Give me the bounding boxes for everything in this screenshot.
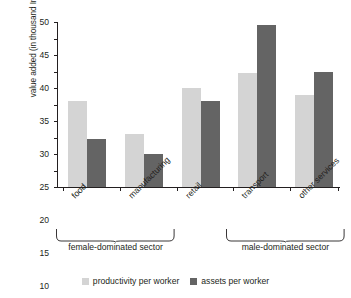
y-axis-title: value added (in thousand Indonesia Rupia… (25, 0, 41, 111)
group-bracket-label-female-dominated: female-dominated sector (56, 243, 175, 252)
y-tick-10: 10 (54, 154, 57, 155)
y-tick-label-45: 45 (39, 51, 49, 60)
y-tick-label-20: 20 (39, 216, 49, 225)
y-tick-label-50: 50 (39, 18, 49, 27)
x-tick-other-services (290, 188, 291, 191)
legend-swatch-icon-productivity (82, 278, 89, 285)
bar-transport-productivity (238, 73, 257, 187)
y-axis-line (57, 22, 58, 188)
y-tick-label-15: 15 (39, 249, 49, 258)
bar-retail-productivity (182, 88, 201, 187)
y-tick-label-25: 25 (39, 183, 49, 192)
y-tick-20: 20 (54, 121, 57, 122)
y-tick-label-35: 35 (39, 117, 49, 126)
x-tick-retail (177, 188, 178, 191)
bar-food-productivity (68, 101, 87, 187)
y-tick-30: 30 (54, 88, 57, 89)
legend-item-productivity: productivity per worker (82, 276, 179, 286)
group-bracket-label-male-dominated: male-dominated sector (226, 243, 345, 252)
legend-label-assets: assets per worker (201, 276, 269, 286)
bar-chart: value added (in thousand Indonesia Rupia… (0, 0, 351, 298)
y-tick-5: 5 (54, 171, 57, 172)
legend-label-productivity: productivity per worker (93, 276, 179, 286)
bar-food-assets (87, 139, 106, 187)
y-tick-15: 15 (54, 138, 57, 139)
plot-area: 05101520253035404550 foodmanufacturingre… (57, 22, 340, 188)
x-tick-manufacturing (120, 188, 121, 191)
y-tick-35: 35 (54, 72, 57, 73)
y-tick-0: 0 (54, 187, 57, 188)
legend: productivity per worker assets per worke… (0, 276, 351, 286)
x-tick-food (63, 188, 64, 191)
legend-swatch-icon-assets (190, 278, 197, 285)
y-tick-25: 25 (54, 105, 57, 106)
group-bracket-female-dominated: female-dominated sector (56, 229, 175, 242)
x-tick-transport (233, 188, 234, 191)
y-tick-45: 45 (54, 39, 57, 40)
group-bracket-male-dominated: male-dominated sector (226, 229, 345, 242)
y-tick-label-30: 30 (39, 150, 49, 159)
y-tick-label-40: 40 (39, 84, 49, 93)
x-tick-end (338, 188, 339, 191)
bar-transport-assets (257, 25, 276, 187)
bar-other-services-productivity (295, 95, 314, 187)
legend-item-assets: assets per worker (190, 276, 269, 286)
y-tick-40: 40 (54, 55, 57, 56)
y-tick-50: 50 (54, 22, 57, 23)
bar-retail-assets (201, 101, 220, 187)
